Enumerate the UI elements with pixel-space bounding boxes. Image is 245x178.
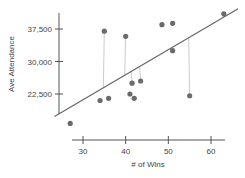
scatter-chart: 22,50030,00037,500 30405060 # of Wins Av… xyxy=(0,0,245,178)
regression-line xyxy=(54,9,238,117)
data-point xyxy=(129,81,134,86)
data-point xyxy=(106,96,111,101)
data-point xyxy=(221,11,226,16)
x-tick-labels: 30405060 xyxy=(79,147,216,156)
x-tick-label: 60 xyxy=(207,147,216,156)
y-tick-label: 30,000 xyxy=(28,58,53,67)
data-point xyxy=(170,48,175,53)
data-points xyxy=(68,11,227,126)
data-point xyxy=(127,91,132,96)
x-axis-title: # of Wins xyxy=(131,160,164,169)
x-tick-label: 40 xyxy=(121,147,130,156)
data-point xyxy=(97,98,102,103)
data-point xyxy=(68,121,73,126)
x-tick-label: 50 xyxy=(164,147,173,156)
data-point xyxy=(123,34,128,39)
data-point xyxy=(170,21,175,26)
y-axis-title: Ave Attendance xyxy=(7,36,16,92)
y-tick-labels: 22,50030,00037,500 xyxy=(28,25,53,99)
data-point xyxy=(102,29,107,34)
residual-line xyxy=(125,36,126,74)
data-point xyxy=(159,22,164,27)
residual-line xyxy=(103,31,104,87)
data-point xyxy=(187,93,192,98)
y-axis xyxy=(55,13,63,114)
y-tick-label: 22,500 xyxy=(28,90,53,99)
y-tick-label: 37,500 xyxy=(28,25,53,34)
x-axis xyxy=(72,136,225,144)
residual-line xyxy=(189,37,190,95)
data-point xyxy=(132,96,137,101)
data-point xyxy=(138,78,143,83)
x-tick-label: 30 xyxy=(79,147,88,156)
